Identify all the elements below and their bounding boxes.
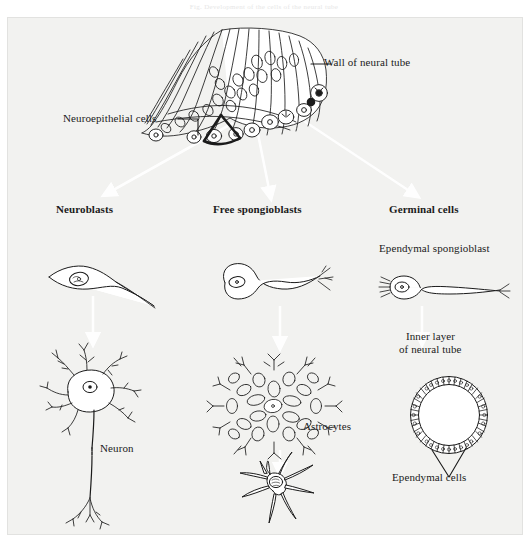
protoplasmic-astrocyte-drawing (207, 354, 342, 459)
fibrous-astrocyte-drawing (240, 452, 314, 523)
label-ependymal-spongioblast: Ependymal spongioblast (379, 242, 490, 255)
figure-panel: Wall of neural tube Neuroepithelial cell… (7, 17, 523, 535)
label-wall-of-neural-tube: Wall of neural tube (324, 56, 410, 69)
ependymal-ring-drawing (411, 377, 488, 478)
label-inner-layer-line1: Inner layer (406, 330, 455, 343)
label-neuron: Neuron (100, 442, 134, 455)
ink-drawing-layer (8, 18, 522, 534)
figure-caption-top: Fig. Development of the cells of the neu… (0, 0, 528, 14)
neural-tube-wall-drawing (142, 28, 327, 144)
label-ependymal-cells: Ependymal cells (392, 471, 467, 484)
free-spongioblast-drawing (223, 264, 333, 299)
figure-container: Fig. Development of the cells of the neu… (0, 0, 528, 540)
label-astrocytes: Astrocytes (303, 420, 351, 433)
label-neuroblasts: Neuroblasts (56, 203, 113, 216)
neuron-drawing (40, 343, 141, 529)
label-neuroepithelial-cells: Neuroepithelial cells (63, 112, 156, 125)
ependymal-spongioblast-drawing (379, 276, 510, 299)
neuroblast-drawing (49, 266, 155, 308)
label-germinal-cells: Germinal cells (389, 203, 459, 216)
label-inner-layer-line2: of neural tube (399, 343, 462, 356)
label-free-spongioblasts: Free spongioblasts (213, 203, 302, 216)
